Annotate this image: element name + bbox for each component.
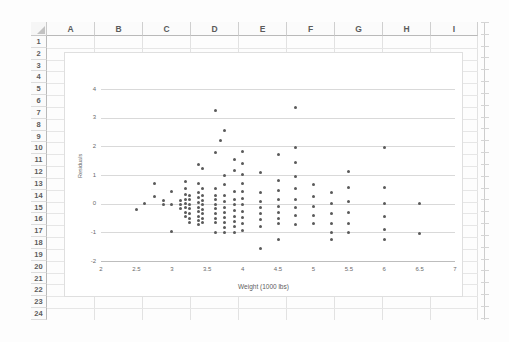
row-header-17[interactable]: 17 (31, 225, 47, 237)
scatter-point (184, 202, 187, 205)
row-header-11[interactable]: 11 (31, 154, 47, 166)
row-header-19[interactable]: 19 (31, 249, 47, 261)
column-header-a[interactable]: A (47, 22, 95, 36)
row-header-1[interactable]: 1 (31, 36, 47, 48)
scatter-point (201, 212, 204, 215)
scatter-point (197, 223, 200, 226)
vertical-scrollbar[interactable] (481, 22, 489, 320)
scatter-point (214, 207, 217, 210)
row-header-24[interactable]: 24 (31, 308, 47, 320)
scatter-point (294, 187, 297, 190)
scrollbar-tick (481, 128, 489, 129)
row-header-9[interactable]: 9 (31, 131, 47, 143)
scatter-point (162, 199, 165, 202)
scatter-point (277, 205, 280, 208)
scatter-point (197, 210, 200, 213)
scrollbar-tick (481, 282, 489, 283)
scatter-point (223, 174, 226, 177)
row-header-22[interactable]: 22 (31, 284, 47, 296)
column-header-e[interactable]: E (239, 22, 287, 36)
scrollbar-tick (481, 164, 489, 165)
scatter-point (347, 170, 350, 173)
scatter-point (179, 207, 182, 210)
scatter-point (201, 199, 204, 202)
column-header-g[interactable]: G (335, 22, 383, 36)
scatter-point (214, 151, 217, 154)
scrollbar-tick (481, 93, 489, 94)
scatter-point (241, 162, 244, 165)
scatter-point (347, 200, 350, 203)
row-header-5[interactable]: 5 (31, 83, 47, 95)
x-axis-tick-label: 5.5 (338, 266, 360, 273)
column-header-c[interactable]: C (143, 22, 191, 36)
x-axis-tick-label: 5 (302, 266, 324, 273)
scrollbar-tick (481, 81, 489, 82)
gridline-horizontal (101, 146, 455, 147)
row-header-12[interactable]: 12 (31, 166, 47, 178)
scatter-point (241, 203, 244, 206)
column-header-f[interactable]: F (287, 22, 335, 36)
scatter-point (330, 191, 333, 194)
scatter-point (233, 158, 236, 161)
scrollbar-tick (481, 235, 489, 236)
embedded-chart-object[interactable]: Residuals Weight (1000 lbs) -2-10123422.… (64, 52, 463, 297)
row-header-21[interactable]: 21 (31, 273, 47, 285)
scatter-point (223, 129, 226, 132)
y-axis-tick-label: 3 (78, 114, 96, 121)
scatter-point (197, 182, 200, 185)
scatter-point (162, 203, 165, 206)
row-header-7[interactable]: 7 (31, 107, 47, 119)
column-header-d[interactable]: D (191, 22, 239, 36)
scatter-point (188, 217, 191, 220)
scrollbar-tick (481, 247, 489, 248)
scatter-point (347, 211, 350, 214)
scrollbar-tick (481, 105, 489, 106)
scatter-point (223, 216, 226, 219)
gridline-horizontal (101, 89, 455, 90)
scatter-point (241, 229, 244, 232)
scrollbar-tick (481, 46, 489, 47)
select-all-button[interactable] (31, 22, 47, 36)
row-header-6[interactable]: 6 (31, 95, 47, 107)
scatter-point (153, 195, 156, 198)
row-header-8[interactable]: 8 (31, 119, 47, 131)
scatter-point (219, 139, 222, 142)
row-header-15[interactable]: 15 (31, 202, 47, 214)
scatter-point (241, 173, 244, 176)
scrollbar-tick (481, 318, 489, 319)
row-header-16[interactable]: 16 (31, 213, 47, 225)
scatter-point (223, 211, 226, 214)
row-header-18[interactable]: 18 (31, 237, 47, 249)
scatter-point (294, 161, 297, 164)
scatter-point (153, 182, 156, 185)
row-header-4[interactable]: 4 (31, 71, 47, 83)
scatter-point (223, 226, 226, 229)
row-header-13[interactable]: 13 (31, 178, 47, 190)
scatter-point (184, 206, 187, 209)
scatter-point (233, 198, 236, 201)
row-header-23[interactable]: 23 (31, 296, 47, 308)
row-header-3[interactable]: 3 (31, 60, 47, 72)
scatter-plot-area: Residuals Weight (1000 lbs) -2-10123422.… (65, 53, 462, 296)
scatter-point (277, 238, 280, 241)
scrollbar-tick (481, 294, 489, 295)
scatter-point (197, 215, 200, 218)
row-header-14[interactable]: 14 (31, 190, 47, 202)
x-axis-tick-label: 7 (444, 266, 466, 273)
column-header-h[interactable]: H (383, 22, 431, 36)
scatter-point (233, 190, 236, 193)
column-header-b[interactable]: B (95, 22, 143, 36)
scatter-point (197, 201, 200, 204)
scatter-point (201, 217, 204, 220)
row-header-2[interactable]: 2 (31, 48, 47, 60)
scatter-point (223, 194, 226, 197)
column-header-i[interactable]: I (431, 22, 478, 36)
x-axis-tick-label: 4.5 (267, 266, 289, 273)
scatter-point (197, 191, 200, 194)
scatter-point (241, 182, 244, 185)
row-header-20[interactable]: 20 (31, 261, 47, 273)
row-header-10[interactable]: 10 (31, 142, 47, 154)
scatter-point (214, 109, 217, 112)
scrollbar-tick (481, 34, 489, 35)
scatter-point (312, 222, 315, 225)
